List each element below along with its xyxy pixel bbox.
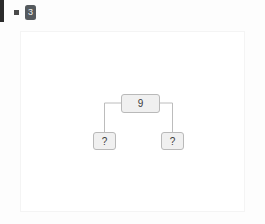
square-bullet-icon	[14, 10, 19, 15]
tree-node-left-child[interactable]: ?	[93, 132, 116, 150]
edge-root-left	[105, 103, 122, 132]
count-badge[interactable]: 3	[25, 5, 36, 20]
tree-node-right-child[interactable]: ?	[161, 132, 184, 150]
canvas-panel[interactable]: 9 ? ?	[20, 31, 245, 212]
left-edge-rail	[0, 0, 4, 22]
tree-diagram: 9 ? ?	[21, 32, 246, 213]
tree-edges	[21, 32, 246, 213]
top-bar: 3	[0, 0, 265, 26]
tree-node-root[interactable]: 9	[121, 94, 160, 113]
edge-root-right	[160, 103, 173, 132]
